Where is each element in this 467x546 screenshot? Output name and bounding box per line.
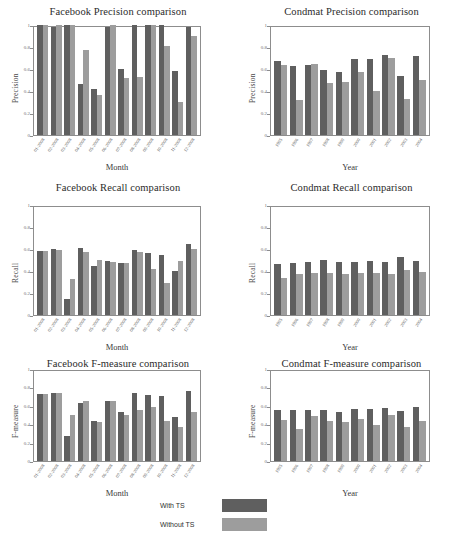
bar-without-ts — [358, 273, 365, 315]
x-tick-label: 01-2008 — [34, 464, 47, 479]
plot-area — [33, 26, 201, 136]
x-tick-label: 09-2008 — [143, 318, 156, 333]
bar-group — [397, 207, 410, 315]
y-tick-mark — [30, 425, 33, 426]
y-axis-label: Precision — [248, 73, 257, 103]
y-tick-mark — [267, 228, 270, 229]
y-axis-label: F-measure — [248, 405, 257, 438]
y-tick-mark — [267, 444, 270, 445]
y-tick-mark — [267, 294, 270, 295]
y-tick-mark — [267, 316, 270, 317]
x-tick-label: 1995 — [275, 318, 284, 328]
bar-group — [64, 207, 75, 315]
bar-without-ts — [419, 421, 426, 461]
bar-group — [336, 371, 349, 461]
plot-area — [270, 26, 430, 136]
x-tick-label: 10-2008 — [156, 318, 169, 333]
x-tick-label: 1995 — [275, 464, 284, 474]
bar-without-ts — [83, 401, 89, 461]
y-tick-mark — [30, 370, 33, 371]
bar-without-ts — [151, 407, 157, 461]
bar-without-ts — [191, 249, 197, 315]
bar-group — [51, 371, 62, 461]
y-tick-mark — [267, 92, 270, 93]
bar-group — [290, 207, 303, 315]
plot-area — [270, 370, 430, 462]
y-tick-label: 0.6 — [16, 67, 30, 72]
y-tick-mark — [30, 388, 33, 389]
x-tick-label: 10-2008 — [156, 464, 169, 479]
panel-facebook-recall: Facebook Recall comparison 00.20.40.60.8… — [0, 176, 236, 352]
legend: With TS Without TS — [160, 496, 360, 534]
x-tick-label: 05-2008 — [88, 138, 101, 153]
y-tick-label: 0.8 — [16, 45, 30, 50]
bar-group — [382, 371, 395, 461]
y-tick-label: 0.2 — [16, 291, 30, 296]
bar-without-ts — [137, 410, 143, 461]
x-tick-label: 1998 — [322, 464, 331, 474]
x-tick-label: 2001 — [369, 318, 378, 328]
legend-swatch-with-ts — [222, 499, 267, 512]
y-tick-label: 0.6 — [16, 247, 30, 252]
y-tick-mark — [267, 70, 270, 71]
x-tick-label: 06-2008 — [102, 138, 115, 153]
bar-without-ts — [311, 416, 318, 461]
bar-group — [145, 27, 156, 135]
plot-area — [270, 206, 430, 316]
y-tick-mark — [267, 250, 270, 251]
bar-without-ts — [43, 251, 49, 315]
x-tick-label: 04-2008 — [75, 138, 88, 153]
y-tick-label: 1 — [16, 23, 30, 28]
bar-without-ts — [327, 273, 334, 315]
y-tick-mark — [267, 370, 270, 371]
bar-group — [367, 207, 380, 315]
bar-group — [413, 371, 426, 461]
y-tick-mark — [30, 316, 33, 317]
x-tick-label: 10-2008 — [156, 138, 169, 153]
bar-group — [159, 207, 170, 315]
y-tick-mark — [30, 462, 33, 463]
bar-group — [64, 27, 75, 135]
y-tick-label: 0.8 — [16, 225, 30, 230]
panel-condmat-fmeasure: Condmat F-measure comparison 00.20.40.60… — [236, 352, 467, 492]
bar-series-container — [34, 207, 200, 315]
x-tick-label: 12-2008 — [184, 318, 197, 333]
x-tick-label: 2003 — [400, 138, 409, 148]
bar-without-ts — [404, 270, 411, 315]
bar-without-ts — [124, 78, 130, 135]
x-tick-label: 11-2008 — [170, 318, 182, 333]
y-axis-label: F-measure — [11, 405, 20, 438]
bar-without-ts — [70, 25, 76, 135]
bar-group — [397, 27, 410, 135]
bar-without-ts — [97, 95, 103, 135]
x-tick-label: 03-2008 — [61, 138, 74, 153]
bar-without-ts — [388, 58, 395, 135]
y-tick-label: 0 — [16, 133, 30, 138]
panel-facebook-fmeasure: Facebook F-measure comparison 00.20.40.6… — [0, 352, 236, 492]
y-tick-mark — [30, 114, 33, 115]
bar-group — [37, 207, 48, 315]
bar-group — [159, 27, 170, 135]
x-tick-label: 12-2008 — [184, 138, 197, 153]
y-tick-label: 0.6 — [253, 247, 267, 252]
bar-without-ts — [83, 252, 89, 315]
y-tick-label: 0 — [253, 313, 267, 318]
bar-group — [186, 207, 197, 315]
bar-group — [159, 371, 170, 461]
y-tick-mark — [30, 48, 33, 49]
x-tick-label: 07-2008 — [115, 318, 128, 333]
y-tick-mark — [30, 294, 33, 295]
bar-without-ts — [56, 25, 62, 135]
bar-without-ts — [342, 82, 349, 135]
bar-group — [351, 27, 364, 135]
y-tick-mark — [267, 388, 270, 389]
y-tick-label: 1 — [16, 367, 30, 372]
bar-without-ts — [137, 252, 143, 315]
x-tick-label: 1996 — [291, 138, 300, 148]
x-tick-label: 05-2008 — [88, 318, 101, 333]
x-tick-label: 2002 — [384, 464, 393, 474]
x-tick-label: 05-2008 — [88, 464, 101, 479]
bar-without-ts — [388, 274, 395, 315]
y-tick-label: 1 — [253, 203, 267, 208]
x-axis-label: Year — [270, 342, 430, 352]
